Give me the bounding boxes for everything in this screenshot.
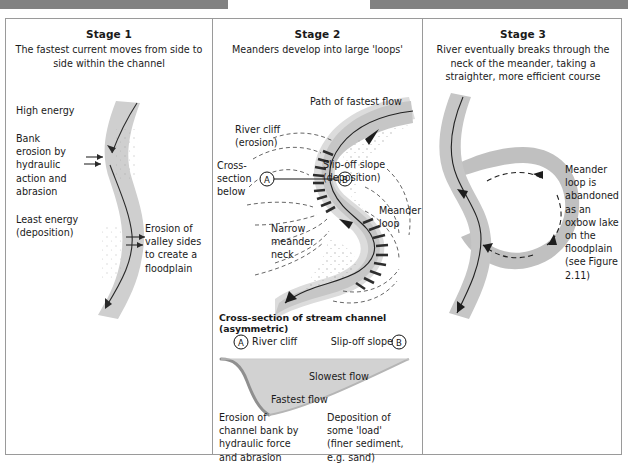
stage2-label-narrow-meander-neck: Narrow meander neck [271,222,321,262]
top-grey-bars [0,0,628,14]
stage1-thalweg-upper [112,103,137,153]
stage3-title: Stage 3 [423,28,623,40]
stage2-subtitle: Meanders develop into large 'loops' [213,43,422,57]
stage1-erosion-arrows-right [126,234,145,248]
cross-section-label-river-cliff: River cliff [252,335,312,348]
cross-section-note-right: Deposition of some 'load' (finer sedimen… [327,411,409,464]
stage3-oxbow-dashed-flow [483,172,561,257]
stage2-flow-arrow-2 [339,219,353,229]
stage3-oxbow-arrow-3 [483,243,493,253]
cross-section-label-slowest-flow: Slowest flow [309,370,381,383]
stage3-flow-arrow-2 [457,301,465,313]
stage1-title: Stage 1 [6,28,212,40]
cross-section-marker-b-circle [392,335,406,349]
stage2-label-river-cliff: River cliff (erosion) [235,123,295,149]
panel-stage-2: Stage 2 Meanders develop into large 'loo… [213,19,422,454]
cross-section-marker-b-text: B [396,338,402,348]
stage3-subtitle: River eventually breaks through the neck… [423,43,623,84]
stage2-label-path-fastest-flow: Path of fastest flow [310,95,420,108]
stage3-note-pre: Meander loop is abandoned as an [565,164,619,215]
stage1-thalweg-lower [106,165,132,307]
top-bar-left [0,0,228,9]
stage1-erosion-arrows-left [84,154,103,167]
cross-section-bed [269,359,409,415]
stage3-note-oxbow-lake: oxbow lake [565,217,619,228]
stage2-title: Stage 2 [213,28,422,40]
stage3-flow-arrow-1 [457,189,468,199]
stage2-label-meander-loop: Meander loop [379,204,421,230]
stage1-label-least-energy: Least energy (deposition) [16,213,91,239]
stage1-channel-band [98,101,144,319]
cross-section-note-left: Erosion of channel bank by hydraulic for… [219,411,303,464]
top-bar-right [370,0,628,9]
stage2-marker-a-circle [260,172,274,186]
cross-section-title: Cross-section of stream channel (asymmet… [219,312,424,334]
stage2-flow-arrow-1 [365,129,379,145]
cross-section-marker-a-circle [234,335,248,349]
stage3-oxbow-arrow-1 [533,171,543,179]
cross-section-marker-a-text: A [238,338,244,348]
stage2-marker-a-text: A [264,175,270,185]
stage2-flow-arrow-3 [285,291,297,303]
stage1-subtitle: The fastest current moves from side to s… [6,43,212,70]
stage3-note: Meander loop is abandoned as an oxbow la… [565,163,623,282]
panel-stage-1: Stage 1 The fastest current moves from s… [6,19,212,454]
figure-frame: Stage 1 The fastest current moves from s… [5,18,622,455]
cross-section-label-fastest-flow: Fastest flow [271,393,339,406]
stage1-flow-arrow-2 [105,298,112,309]
panel-stage-3: Stage 3 River eventually breaks through … [423,19,623,454]
stage1-label-erosion-valley: Erosion of valley sides to create a floo… [145,222,211,275]
stage3-new-channel [439,93,491,319]
stage3-thalweg [451,97,481,313]
stage3-oxbow-loop [459,147,579,269]
cross-section-label-slip-off-slope: Slip-off slope [327,335,393,348]
cross-section-left-bank [221,359,269,415]
cross-section-fill [221,359,409,415]
stage2-label-cross-section-below: Cross-section below [217,159,261,199]
stage2-label-slip-off-slope: Slip-off slope (deposition) [323,158,395,184]
stage1-label-high-energy: High energy [16,104,96,117]
stage3-note-post: on the floodplain (see Figure 2.11) [565,230,618,281]
stage3-oxbow-arrow-2 [548,234,557,245]
stage1-flow-arrow-1 [107,145,116,153]
stage1-label-bank-erosion: Bank erosion by hydraulic action and abr… [16,132,78,198]
